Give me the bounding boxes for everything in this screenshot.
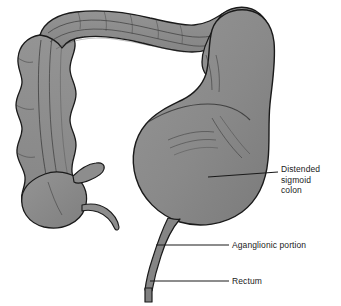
rectum (145, 288, 152, 302)
label-distended-line3: colon (281, 185, 302, 195)
label-distended-line1: Distended (281, 164, 320, 174)
ileum-stub (73, 163, 104, 183)
colon-illustration (0, 0, 341, 306)
label-distended-line2: sigmoid (281, 175, 311, 185)
aganglionic-segment (145, 218, 180, 291)
appendix (82, 204, 119, 230)
label-rectum: Rectum (232, 276, 262, 287)
label-aganglionic-portion: Aganglionic portion (232, 240, 306, 251)
label-distended-sigmoid-colon: Distendedsigmoidcolon (281, 164, 320, 196)
hirschsprung-colon-figure: Distendedsigmoidcolon Aganglionic portio… (0, 0, 341, 306)
